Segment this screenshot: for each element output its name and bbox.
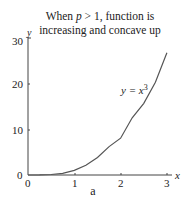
y-tick-20: 20	[12, 78, 24, 90]
x-axis-label: x	[174, 169, 180, 181]
y-tick-0: 0	[17, 169, 23, 181]
y-axis-label: y	[26, 27, 32, 38]
curve-label: y = x3	[120, 83, 148, 96]
curve-y-equals-x-cubed	[28, 53, 167, 175]
figure-caption: a	[0, 184, 186, 199]
y-tick-30: 30	[12, 35, 24, 47]
y-tick-10: 10	[12, 124, 24, 136]
plot-area: 0 10 20 30 0 1 2 3 y x y = x3	[0, 0, 186, 209]
